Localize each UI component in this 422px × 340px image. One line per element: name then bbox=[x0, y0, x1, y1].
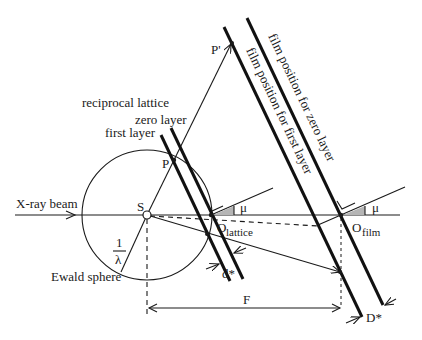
label-first-layer: first layer bbox=[105, 125, 156, 140]
radius-line bbox=[121, 215, 147, 272]
film-intersection-point bbox=[338, 270, 342, 274]
point-p-prime bbox=[230, 41, 234, 45]
label-ewald-sphere: Ewald sphere bbox=[51, 269, 122, 284]
label-d-star: d* bbox=[222, 266, 235, 281]
o-film-point bbox=[339, 213, 343, 217]
d-star-arrow-right bbox=[234, 248, 246, 253]
film-zero-layer-line bbox=[247, 18, 383, 305]
label-o-film: O film bbox=[352, 220, 381, 238]
svg-text:λ: λ bbox=[115, 252, 122, 267]
o-lattice-point bbox=[209, 213, 213, 217]
point-p bbox=[172, 158, 176, 162]
label-one-over-lambda: 1 λ bbox=[113, 235, 126, 267]
label-s: S bbox=[137, 199, 144, 214]
label-p: P bbox=[162, 156, 169, 171]
label-D-star: D* bbox=[366, 310, 382, 325]
label-mu-film: μ bbox=[372, 200, 379, 215]
right-angle-film-icon bbox=[337, 201, 355, 209]
ray-s-to-film bbox=[147, 215, 340, 272]
svg-text:1: 1 bbox=[116, 235, 123, 250]
svg-text:O: O bbox=[217, 220, 226, 235]
svg-text:lattice: lattice bbox=[226, 226, 253, 238]
ray-s-to-p-prime bbox=[147, 44, 231, 215]
label-F: F bbox=[243, 292, 250, 307]
lower-intersection-point bbox=[205, 232, 209, 236]
d-star-arrow-left bbox=[206, 264, 219, 269]
svg-text:O: O bbox=[352, 220, 361, 235]
label-p-prime: P' bbox=[211, 42, 221, 57]
D-star-arrow-left bbox=[346, 317, 360, 323]
mu-wedge-lattice bbox=[213, 206, 234, 215]
svg-text:film: film bbox=[362, 226, 381, 238]
label-mu-lattice: μ bbox=[240, 200, 247, 215]
dashed-horizontal bbox=[150, 216, 318, 226]
label-reciprocal-lattice: reciprocal lattice bbox=[82, 95, 169, 110]
label-xray-beam: X-ray beam bbox=[16, 196, 78, 211]
D-star-arrow-right bbox=[385, 299, 396, 305]
precession-diagram: X-ray beam S P P' reciprocal lattice zer… bbox=[0, 0, 422, 340]
